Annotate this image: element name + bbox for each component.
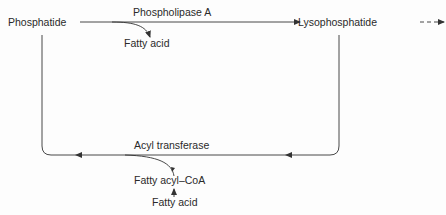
phospholipase-label: Phospholipase A	[133, 6, 211, 18]
fatty-acid-release-arrow	[112, 22, 150, 37]
loop-arrowhead-right	[285, 152, 292, 158]
fatty-acyl-coa-label: Fatty acyl–CoA	[134, 174, 205, 186]
reacylation-loop	[42, 35, 339, 155]
fatty-acid-substrate-label: Fatty acid	[152, 196, 198, 208]
pathway-arrows	[0, 0, 446, 215]
acyl-transferase-label: Acyl transferase	[134, 139, 209, 151]
fatty-acid-product-label: Fatty acid	[124, 37, 170, 49]
diagram-canvas: Phosphatide Phospholipase A Fatty acid L…	[0, 0, 446, 215]
phosphatide-label: Phosphatide	[8, 16, 66, 28]
lysophosphatide-label: Lysophosphatide	[298, 16, 377, 28]
acyl-coa-input-arrow	[125, 155, 174, 176]
loop-arrowhead-left	[75, 152, 82, 158]
